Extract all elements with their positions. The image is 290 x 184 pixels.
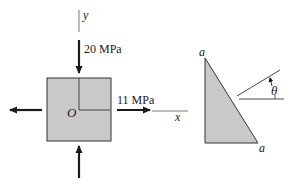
vertical-stress-label: 20 MPa [84,42,122,56]
x-axis-label: x [174,110,181,124]
stress-diagram: y 20 MPa O 11 MPa x a a θ [0,0,290,184]
stress-element: y 20 MPa O 11 MPa x [10,8,188,178]
y-axis-label: y [82,8,89,22]
triangle-wedge [205,58,258,143]
wedge-top-label: a [199,45,205,59]
horizontal-stress-label: 11 MPa [117,93,155,107]
angle-theta-label: θ [271,83,278,98]
origin-label: O [67,105,77,120]
wedge-bottom-label: a [259,141,265,155]
wedge-element: a a θ [199,45,284,155]
